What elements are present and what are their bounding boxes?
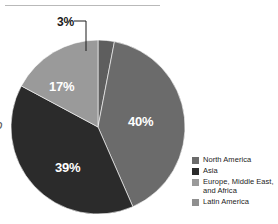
legend-swatch-icon xyxy=(192,157,199,164)
clipped-edge-glyph: ɔ xyxy=(0,118,3,131)
legend-item-label: North America xyxy=(203,155,251,164)
legend-item-north-america[interactable]: North America xyxy=(192,155,278,164)
pie-svg xyxy=(0,0,200,224)
legend-swatch-icon xyxy=(192,168,199,175)
slice-value-label-north-america: 40% xyxy=(128,115,153,128)
legend: North America Asia Europe, Middle East, … xyxy=(192,155,278,208)
legend-item-asia[interactable]: Asia xyxy=(192,166,278,175)
legend-item-europe-middle-east-africa[interactable]: Europe, Middle East, and Africa xyxy=(192,177,278,195)
slice-value-label-latin-america: 3% xyxy=(57,16,74,28)
legend-item-label: Asia xyxy=(203,166,218,175)
pie-chart-figure: 3% 40% 39% 17% ɔ North America Asia Euro… xyxy=(0,0,278,224)
legend-item-label: Europe, Middle East, and Africa xyxy=(203,177,278,195)
legend-swatch-icon xyxy=(192,179,199,186)
slice-value-label-europe-middle-east-africa: 17% xyxy=(49,80,74,93)
legend-item-label: Latin America xyxy=(203,197,249,206)
slice-value-label-asia: 39% xyxy=(55,161,80,174)
pie-graphic xyxy=(0,0,200,224)
legend-swatch-icon xyxy=(192,199,199,206)
legend-item-latin-america[interactable]: Latin America xyxy=(192,197,278,206)
